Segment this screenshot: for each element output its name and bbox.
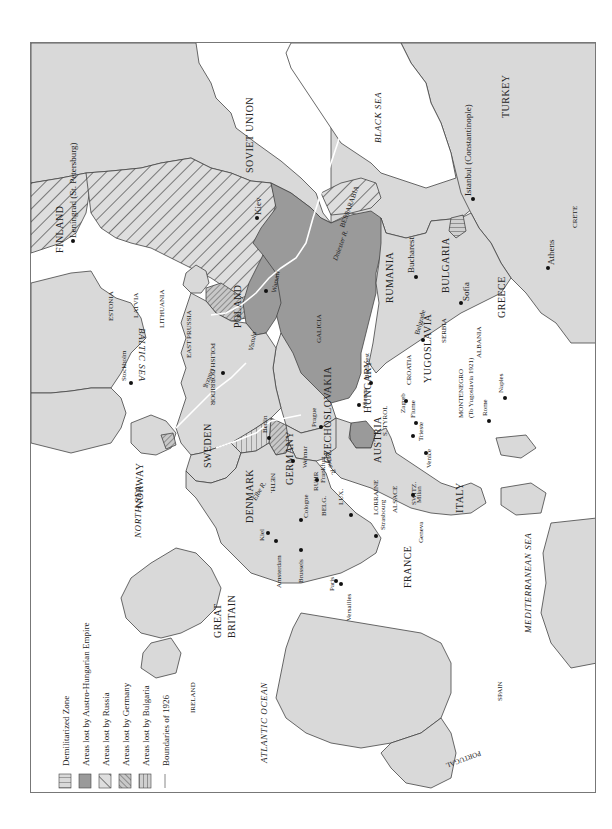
- label-river-r: R.: [235, 312, 243, 319]
- label-germany: GERMANY: [284, 431, 295, 485]
- label-rumania: RUMANIA: [384, 251, 395, 303]
- label-baltic-sea: BALTIC SEA: [137, 328, 147, 382]
- ireland-region: [141, 638, 181, 678]
- italy-south-region: [541, 518, 596, 668]
- svg-text:Amsterdam: Amsterdam: [275, 555, 283, 588]
- city-paris: Paris: [328, 577, 338, 591]
- legend-label-bulgaria: Areas lost by Bulgaria: [141, 685, 151, 766]
- legend-label-line: Boundaries of 1926: [161, 695, 171, 766]
- legend-label-dmz: Demilitarized Zone: [61, 696, 71, 766]
- label-crete: CRETE: [571, 206, 579, 228]
- svg-text:Vienna: Vienna: [361, 387, 369, 408]
- label-croatia: CROATIA: [405, 355, 413, 385]
- svg-text:Brussels: Brussels: [297, 559, 305, 583]
- city-fiume: Fiume: [409, 400, 418, 425]
- svg-text:Paris: Paris: [328, 577, 336, 591]
- svg-text:Kiel: Kiel: [258, 529, 266, 541]
- svg-text:Weimar: Weimar: [301, 445, 309, 468]
- legend-label-russia: Areas lost by Russia: [101, 692, 111, 766]
- svg-text:Prague: Prague: [310, 408, 318, 427]
- svg-text:Athens: Athens: [546, 239, 556, 265]
- label-atlantic-ocean: ATLANTIC OCEAN: [259, 682, 269, 764]
- label-latvia: LATVIA: [132, 293, 140, 318]
- svg-text:Frankfurt: Frankfurt: [319, 457, 327, 483]
- corsica-island: [496, 435, 536, 458]
- svg-text:Geneva: Geneva: [417, 521, 425, 543]
- svg-text:Cologne: Cologne: [302, 494, 310, 518]
- label-serbia: SERBIA: [440, 318, 448, 343]
- label-estonia: ESTONIA: [107, 291, 115, 321]
- legend-swatch-dmz: [59, 774, 71, 788]
- legend-label-austria: Areas lost by Austro-Hungarian Empire: [81, 623, 91, 766]
- label-greece: GREECE: [496, 276, 507, 318]
- label-montenegro: MONTENEGRO: [457, 369, 465, 418]
- label-black-sea: BLACK SEA: [373, 92, 383, 143]
- sweden-region: [31, 271, 146, 393]
- legend-label-germany: Areas lost by Germany: [121, 682, 131, 766]
- legend-swatch-russia: [99, 774, 111, 788]
- sardinia-island: [501, 483, 546, 515]
- map-frame: Demilitarized Zone Areas lost by Austro-…: [30, 42, 596, 793]
- svg-text:Bucharest: Bucharest: [406, 237, 416, 273]
- label-alsace: ALSACE: [391, 486, 399, 513]
- label-sweden: SWEDEN: [202, 423, 213, 468]
- svg-text:Strasbourg: Strasbourg: [379, 499, 387, 530]
- label-poland: POLAND: [232, 284, 243, 328]
- svg-text:Budapest: Budapest: [363, 353, 371, 379]
- label-bulgaria: BULGARIA: [440, 237, 451, 293]
- label-netherlands: NETH.: [269, 473, 277, 494]
- svg-text:Venice: Venice: [425, 449, 433, 468]
- label-norway: NORWAY: [134, 463, 145, 508]
- label-italy: ITALY: [454, 482, 465, 513]
- svg-text:Zagreb: Zagreb: [399, 393, 407, 413]
- svg-text:Trieste: Trieste: [417, 422, 425, 441]
- city-zagreb: Zagreb: [399, 393, 408, 413]
- label-albania: ALBANIA: [475, 327, 483, 359]
- europe-map: Demilitarized Zone Areas lost by Austro-…: [31, 43, 596, 793]
- label-czechoslovakia: CZECHOSLOVAKIA: [322, 366, 333, 463]
- svg-text:Berlin: Berlin: [261, 415, 269, 433]
- svg-text:Kiev: Kiev: [253, 197, 263, 215]
- label-lithuania: LITHUANIA: [158, 290, 166, 329]
- city-rome: Rome: [481, 399, 491, 423]
- norway-region: [31, 388, 126, 453]
- label-finland: FINLAND: [54, 206, 65, 253]
- svg-text:Sofia: Sofia: [461, 282, 471, 301]
- city-versailles: Versailles: [339, 582, 353, 621]
- svg-text:Versailles: Versailles: [345, 594, 353, 621]
- svg-text:Fiume: Fiume: [409, 400, 417, 418]
- legend-swatch-austria: [79, 774, 91, 788]
- city-vienna: Vienna: [357, 387, 369, 408]
- label-ireland: IRELAND: [189, 682, 197, 713]
- spain-region: [276, 613, 451, 748]
- label-east-prussia: EAST PRUSSIA: [185, 310, 193, 358]
- label-south-tyrol: S. TYROL: [381, 405, 389, 436]
- legend-swatch-bulgaria: [139, 774, 151, 788]
- city-venice: Venice: [424, 449, 433, 468]
- label-france: FRANCE: [402, 546, 413, 588]
- svg-text:Milan: Milan: [415, 486, 423, 503]
- label-montenegro-note: (To Yugoslavia 1921): [467, 357, 475, 418]
- city-athens: Athens: [546, 239, 556, 270]
- label-turkey: TURKEY: [500, 74, 511, 118]
- city-sofia: Sofia: [459, 282, 471, 305]
- city-leningrad: Leningrad (St. Petersburg): [68, 142, 78, 243]
- svg-text:Rome: Rome: [481, 399, 489, 416]
- city-stockholm: Stockholm: [120, 350, 133, 385]
- label-luxembourg: LUX.: [337, 489, 345, 505]
- label-soviet-union: SOVIET UNION: [244, 97, 255, 173]
- svg-text:Stockholm: Stockholm: [120, 350, 128, 381]
- city-trieste: Trieste: [411, 422, 425, 441]
- great-britain-region: [121, 548, 221, 638]
- svg-text:Istanbul (Constantinople): Istanbul (Constantinople): [463, 104, 473, 196]
- label-great-britain-2: BRITAIN: [226, 595, 237, 638]
- label-great-britain-1: GREAT: [212, 603, 223, 638]
- legend-swatch-germany: [119, 774, 131, 788]
- label-mediterranean-sea: MEDITERRANEAN SEA: [523, 533, 533, 634]
- city-naples: Naples: [497, 373, 507, 400]
- svg-text:Naples: Naples: [497, 373, 505, 393]
- label-belgium: BELG.: [320, 496, 328, 516]
- svg-text:Leningrad (St. Petersburg): Leningrad (St. Petersburg): [68, 142, 78, 238]
- label-spain: SPAIN: [496, 681, 504, 701]
- label-galicia: GALICIA: [315, 314, 323, 343]
